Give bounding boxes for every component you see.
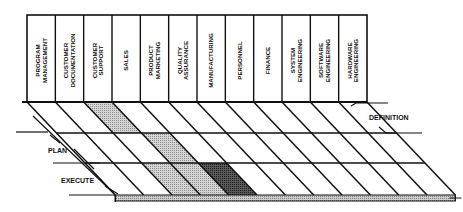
svg-text:PERSONNEL: PERSONNEL xyxy=(236,41,243,80)
svg-text:MARKETING: MARKETING xyxy=(154,42,161,80)
column-header-finance: FINANCE xyxy=(264,47,271,75)
phase-label-execute: EXECUTE xyxy=(61,177,94,184)
column-header-customer-support: CUSTOMERSUPPORT xyxy=(91,42,105,78)
svg-text:ENGINEERING: ENGINEERING xyxy=(352,39,359,83)
svg-text:ENGINEERING: ENGINEERING xyxy=(324,39,331,83)
phase-label-definition: DEFINITION xyxy=(369,114,409,121)
diagram-canvas: PROGRAMMANAGEMENTCUSTOMERDOCUMENTATIONCU… xyxy=(0,0,463,212)
svg-text:MANAGEMENT: MANAGEMENT xyxy=(41,38,48,83)
column-header-manufacturing: MANUFACTURING xyxy=(207,33,214,88)
svg-text:MANUFACTURING: MANUFACTURING xyxy=(207,33,214,88)
svg-text:FINANCE: FINANCE xyxy=(264,47,271,75)
column-header-sales: SALES xyxy=(122,50,129,71)
matrix-shaded-cells xyxy=(84,102,257,195)
svg-text:SALES: SALES xyxy=(122,50,129,71)
column-header-personnel: PERSONNEL xyxy=(236,41,243,80)
function-header-panel: PROGRAMMANAGEMENTCUSTOMERDOCUMENTATIONCU… xyxy=(27,15,367,102)
shaded-cell xyxy=(84,102,142,133)
column-header-program-management: PROGRAMMANAGEMENT xyxy=(34,38,48,83)
column-header-hardware-engineering: HARDWAREENGINEERING xyxy=(346,39,360,83)
phase-matrix-diagram: PROGRAMMANAGEMENTCUSTOMERDOCUMENTATIONCU… xyxy=(0,0,463,212)
column-header-software-engineering: SOFTWAREENGINEERING xyxy=(317,39,331,83)
svg-text:DOCUMENTATION: DOCUMENTATION xyxy=(69,33,76,88)
svg-text:SUPPORT: SUPPORT xyxy=(97,45,104,75)
svg-text:ENGINEERING: ENGINEERING xyxy=(296,39,303,83)
column-header-product-marketing: PRODUCTMARKETING xyxy=(147,42,161,80)
shaded-cell xyxy=(141,133,198,163)
base-slab xyxy=(115,195,455,201)
svg-text:ASSURANCE: ASSURANCE xyxy=(182,41,189,80)
phase-label-plan: PLAN xyxy=(48,147,67,154)
